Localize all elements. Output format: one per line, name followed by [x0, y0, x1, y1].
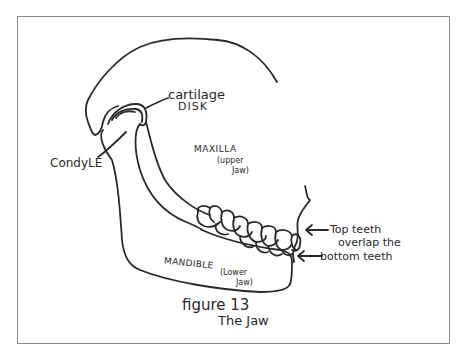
maxilla-label: MAXILLA [194, 145, 237, 154]
teeth-note-line-2: overlap the [338, 237, 401, 248]
top-teeth-arrow [306, 225, 328, 235]
mandible-upper-inner [146, 122, 210, 215]
teeth-note-line-1: Top teeth [330, 224, 381, 235]
ramus-front [136, 124, 203, 230]
cartilage-pointer [146, 98, 168, 108]
teeth-note-line-3: bottom teeth [320, 251, 392, 262]
figure-title: The Jaw [218, 314, 269, 327]
disk-label: DISK [178, 101, 208, 112]
bottom-teeth-arrow [298, 251, 322, 261]
figure-number: figure 13 [182, 298, 249, 313]
maxilla-sub-1: (upper [217, 157, 244, 165]
mandible-sub-1: (Lower [220, 269, 247, 277]
maxilla-sub-2: Jaw) [232, 167, 249, 175]
condyle-label: CondyLE [50, 157, 102, 169]
mandible-sub-2: Jaw) [236, 279, 253, 287]
